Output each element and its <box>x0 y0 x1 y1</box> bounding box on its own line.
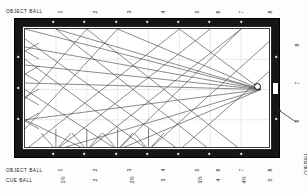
right-scale-number: 6 <box>294 120 300 123</box>
top-scale-label: OBJECT BALL <box>6 9 43 14</box>
right-scale-number: 8 <box>294 44 300 47</box>
scale-number: 4 <box>215 179 221 182</box>
scale-number: 5 <box>194 169 200 172</box>
scale-number: 1½ <box>60 176 66 183</box>
scale-number: 4 <box>160 169 166 172</box>
scale-number: 2 <box>92 169 98 172</box>
scale-number: 6 <box>215 169 221 172</box>
bottom-cue-scale-label: CUE BALL <box>6 178 33 183</box>
scale-number: 2 <box>92 11 98 14</box>
scale-number: 2½ <box>129 176 135 183</box>
scale-number: 5 <box>194 11 200 14</box>
scale-number: 3 <box>160 179 166 182</box>
scale-number: 7 <box>238 11 244 14</box>
scale-number: 3 <box>126 169 132 172</box>
side-pocket <box>272 82 278 95</box>
table-bed <box>24 28 271 149</box>
scale-number: 3 <box>126 11 132 14</box>
right-scale-number: 7 <box>294 82 300 85</box>
scale-number: 6 <box>215 11 221 14</box>
scale-number: 7 <box>238 169 244 172</box>
scale-number: 1 <box>57 11 63 14</box>
pool-table <box>14 18 280 158</box>
bottom-object-scale-label: OBJECT BALL <box>6 168 43 173</box>
scale-number: 8 <box>267 169 273 172</box>
scale-number: 8 <box>267 11 273 14</box>
converging-lines <box>25 29 261 149</box>
diagram-root: OBJECT BALL 12345678 <box>0 0 307 193</box>
fan-lines-bottom <box>41 129 164 149</box>
scale-number: 4 <box>160 11 166 14</box>
scale-number: 2 <box>92 179 98 182</box>
aiming-lines-svg <box>25 29 271 149</box>
scale-number: 5 <box>267 179 273 182</box>
scale-number: 4½ <box>241 176 247 183</box>
scale-number: 1 <box>57 169 63 172</box>
right-scale-label: CUE BALL <box>304 153 308 175</box>
scale-number: 3½ <box>197 176 203 183</box>
